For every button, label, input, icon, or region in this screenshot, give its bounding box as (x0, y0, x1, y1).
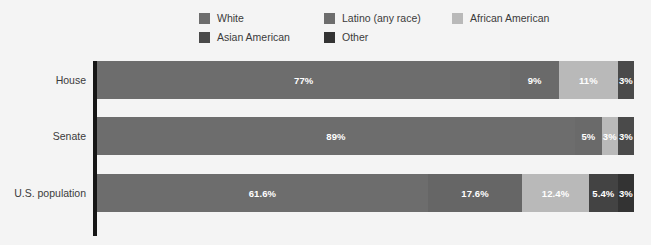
legend-label: White (217, 13, 244, 24)
bar-segment-value: 3% (603, 131, 617, 142)
bar-segment-value: 5.4% (592, 188, 614, 199)
legend-swatch-african-american-icon (452, 13, 463, 24)
category-label: Senate (0, 117, 86, 155)
bar-segment[interactable]: 17.6% (428, 174, 523, 212)
legend-swatch-other-icon (324, 32, 335, 43)
legend-swatch-latino-icon (324, 13, 335, 24)
bar-segment-value: 3% (619, 75, 633, 86)
category-label: U.S. population (0, 174, 86, 212)
legend-row: WhiteLatino (any race)African American (199, 9, 639, 28)
legend-item-asian-american[interactable]: Asian American (199, 32, 324, 43)
legend-swatch-white-icon (199, 13, 210, 24)
category-label: House (0, 61, 86, 99)
legend-item-african-american[interactable]: African American (452, 13, 549, 24)
bar-segment[interactable]: 12.4% (522, 174, 589, 212)
bar-segment[interactable]: 77% (97, 61, 510, 99)
legend-label: Latino (any race) (342, 13, 421, 24)
legend-label: African American (470, 13, 549, 24)
legend-label: Other (342, 32, 368, 43)
stacked-bar-chart: WhiteLatino (any race)African AmericanAs… (0, 0, 651, 245)
bar-segment[interactable]: 89% (97, 117, 575, 155)
bar-segment[interactable]: 3% (602, 117, 618, 155)
bar-segment[interactable]: 11% (559, 61, 618, 99)
bar-track: 89%5%3%3% (97, 117, 634, 155)
bar-segment-value: 12.4% (542, 188, 569, 199)
legend-item-white[interactable]: White (199, 13, 324, 24)
chart-plot-area: House77%9%11%3%Senate89%5%3%3%U.S. popul… (0, 57, 651, 239)
bar-segment[interactable]: 61.6% (97, 174, 428, 212)
bar-segment-value: 5% (581, 131, 595, 142)
bar-segment[interactable]: 9% (510, 61, 558, 99)
bar-segment-value: 61.6% (249, 188, 276, 199)
bar-segment-value: 89% (326, 131, 345, 142)
bar-segment-value: 9% (528, 75, 542, 86)
bar-row: U.S. population61.6%17.6%12.4%5.4%3% (0, 174, 651, 212)
legend-item-latino[interactable]: Latino (any race) (324, 13, 452, 24)
bar-segment[interactable]: 3% (618, 174, 634, 212)
bar-segment[interactable]: 3% (618, 117, 634, 155)
bar-segment-value: 3% (619, 188, 633, 199)
bar-row: Senate89%5%3%3% (0, 117, 651, 155)
legend-row: Asian AmericanOther (199, 28, 639, 47)
legend-label: Asian American (217, 32, 290, 43)
bar-segment-value: 3% (619, 131, 633, 142)
bar-segment[interactable]: 5.4% (589, 174, 618, 212)
legend-item-other[interactable]: Other (324, 32, 452, 43)
bar-track: 61.6%17.6%12.4%5.4%3% (97, 174, 634, 212)
bar-segment[interactable]: 5% (575, 117, 602, 155)
bar-segment-value: 77% (294, 75, 313, 86)
chart-legend: WhiteLatino (any race)African AmericanAs… (199, 9, 639, 47)
bar-row: House77%9%11%3% (0, 61, 651, 99)
bar-segment-value: 11% (579, 75, 598, 86)
bar-segment[interactable]: 3% (618, 61, 634, 99)
bar-segment-value: 17.6% (461, 188, 488, 199)
legend-swatch-asian-american-icon (199, 32, 210, 43)
bar-track: 77%9%11%3% (97, 61, 634, 99)
